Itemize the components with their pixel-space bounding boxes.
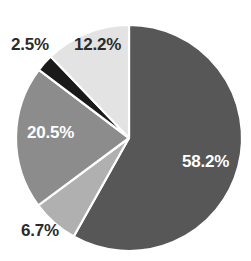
pie-chart: 58.2% 6.7% 20.5% 2.5% 12.2% [0,0,251,261]
pie-slice-label-2-5: 2.5% [11,36,49,53]
pie-slice-label-20-5: 20.5% [27,124,74,141]
pie-slice-label-12-2: 12.2% [74,36,121,53]
pie-slice-label-58-2: 58.2% [182,153,229,170]
pie-slice-label-6-7: 6.7% [21,222,59,239]
